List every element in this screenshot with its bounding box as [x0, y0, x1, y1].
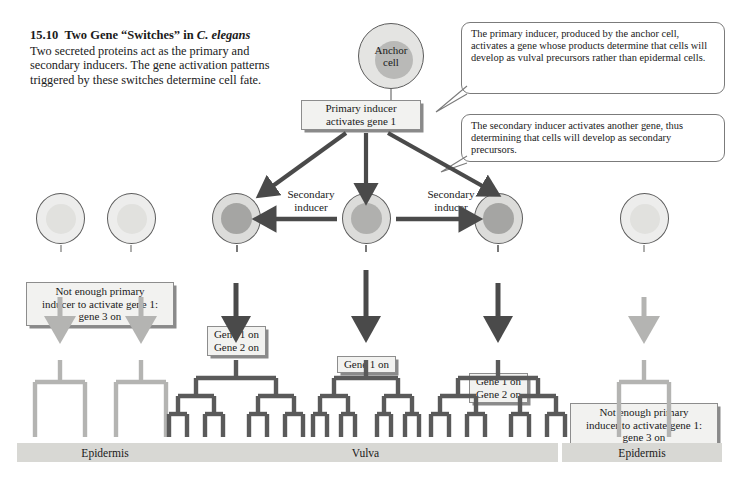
cell-secondary-right	[474, 193, 523, 244]
cell-primary-center	[342, 193, 391, 244]
nucleus-epidermal-right	[630, 204, 660, 234]
tissue-bar-epidermis-right: Epidermis	[562, 443, 722, 462]
gene-box-right-line1: Not enough primary	[586, 406, 702, 419]
anchor-cell-label-line2: cell	[375, 56, 408, 68]
gene-box-epidermal-left: Not enough primary inducer to activate g…	[26, 282, 174, 326]
anchor-cell-label-line1: Anchor	[375, 44, 408, 56]
nucleus-epidermal-left-outer	[46, 204, 76, 234]
primary-inducer-line1: Primary inducer	[325, 102, 396, 115]
gene-box-left-line2: inducer to activate gene 1:	[42, 298, 158, 311]
cell-epidermal-left-inner	[107, 193, 156, 244]
tissue-label-epidermis-left: Epidermis	[81, 447, 128, 459]
figure-number: 15.10	[30, 28, 58, 42]
gene-box-sec-right-line1: Gene 1 on	[476, 375, 521, 388]
gene-box-epidermal-right: Not enough primary inducer to activate g…	[570, 403, 718, 447]
primary-inducer-arrow-left	[270, 133, 346, 188]
figure-caption-text: Two secreted proteins act as the primary…	[30, 44, 298, 87]
gene-box-secondary-left: Gene 1 on Gene 2 on	[207, 326, 266, 356]
figure-canvas: 15.10 Two Gene “Switches” in C. elegans …	[0, 0, 738, 483]
secondary-inducer-left-line1: Secondary	[269, 188, 353, 201]
primary-inducer-callout: The primary inducer, produced by the anc…	[461, 22, 725, 94]
nucleus-epidermal-left-inner	[117, 204, 147, 234]
figure-caption-block: 15.10 Two Gene “Switches” in C. elegans …	[30, 28, 298, 87]
figure-title-species: C. elegans	[197, 28, 250, 42]
nucleus-secondary-left	[221, 203, 252, 234]
gene-box-primary-line1: Gene 1 on	[344, 358, 389, 371]
tissue-bar-epidermis-left: Epidermis	[17, 443, 193, 462]
lineage-tree-epidermal-left-outer	[35, 360, 85, 437]
secondary-inducer-left-line2: inducer	[269, 201, 353, 214]
gene-box-left-line3: gene 3 on	[42, 310, 158, 323]
anchor-cell: Anchor cell	[358, 23, 424, 89]
lineage-tree-secondary-left	[169, 360, 303, 437]
secondary-inducer-callout-text: The secondary inducer activates another …	[471, 120, 683, 155]
gene-box-sec-right-line2: Gene 2 on	[476, 388, 521, 401]
secondary-inducer-right-line1: Secondary	[409, 188, 493, 201]
primary-inducer-callout-text: The primary inducer, produced by the anc…	[471, 28, 707, 63]
gene-box-right-line2: inducer to activate gene 1:	[586, 419, 702, 432]
cell-epidermal-left-outer	[36, 193, 85, 244]
cell-epidermal-right	[620, 193, 669, 244]
nucleus-primary-center	[351, 203, 382, 234]
lineage-tree-epidermal-left-inner	[116, 360, 166, 437]
gene-box-left-line1: Not enough primary	[42, 285, 158, 298]
gene-box-sec-left-line1: Gene 1 on	[214, 328, 259, 341]
figure-title: 15.10 Two Gene “Switches” in C. elegans	[30, 28, 298, 43]
gene-box-right-line3: gene 3 on	[586, 431, 702, 444]
tissue-label-epidermis-right: Epidermis	[618, 447, 665, 459]
gene-box-sec-left-line2: Gene 2 on	[214, 341, 259, 354]
cell-secondary-left	[212, 193, 261, 244]
secondary-inducer-callout: The secondary inducer activates another …	[461, 114, 725, 162]
primary-inducer-box: Primary inducer activates gene 1	[301, 100, 421, 130]
primary-inducer-line2: activates gene 1	[325, 115, 396, 128]
gene-box-primary-center: Gene 1 on	[337, 356, 396, 373]
tissue-label-vulva: Vulva	[352, 447, 379, 459]
figure-title-main: Two Gene “Switches” in	[64, 28, 196, 42]
tissue-bar-vulva: Vulva	[173, 443, 558, 462]
secondary-inducer-label-left: Secondary inducer	[269, 188, 353, 213]
nucleus-secondary-right	[483, 203, 514, 234]
gene-box-secondary-right: Gene 1 on Gene 2 on	[469, 373, 528, 403]
